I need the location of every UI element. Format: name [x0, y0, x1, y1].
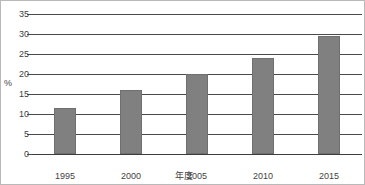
y-axis-tick-label: 25 — [5, 50, 29, 59]
y-axis-tick-label: 15 — [5, 90, 29, 99]
bar-chart-figure: % 3530252015105019952000200520102015 年度 — [0, 0, 365, 185]
x-axis-title: 年度 — [1, 171, 365, 181]
gridline — [32, 14, 362, 15]
gridline — [32, 154, 362, 155]
bar — [120, 90, 142, 154]
y-axis-tick-label: 20 — [5, 70, 29, 79]
bar — [252, 58, 274, 154]
y-axis-tick-label: 5 — [5, 130, 29, 139]
y-axis-unit-label: % — [4, 79, 12, 88]
y-axis-tick-label: 10 — [5, 110, 29, 119]
gridline — [32, 54, 362, 55]
bar — [186, 74, 208, 154]
bar — [54, 108, 76, 154]
plot-area: 3530252015105019952000200520102015 — [32, 14, 362, 154]
y-axis-tick-label: 0 — [5, 150, 29, 159]
bar — [318, 36, 340, 154]
y-axis-tick-label: 35 — [5, 10, 29, 19]
gridline — [32, 34, 362, 35]
y-axis-tick-label: 30 — [5, 30, 29, 39]
